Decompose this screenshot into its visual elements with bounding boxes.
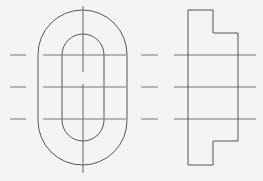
background	[0, 0, 263, 181]
drawing-svg	[0, 0, 263, 181]
technical-drawing	[0, 0, 263, 181]
